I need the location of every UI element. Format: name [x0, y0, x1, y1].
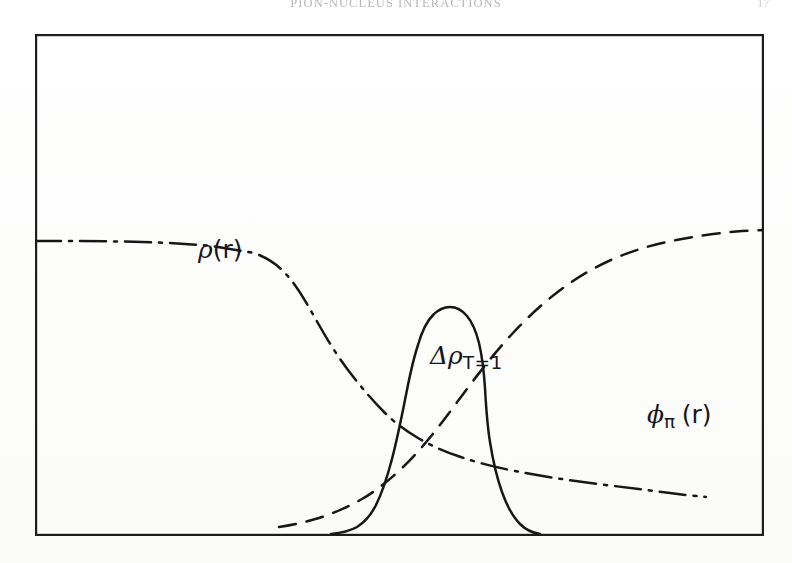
rho-symbol: ρ — [198, 235, 213, 264]
delta-rho-symbol: Δρ — [430, 341, 463, 370]
figure-frame — [36, 35, 763, 535]
running-header: Pion-Nucleus Interactions — [290, 0, 501, 11]
phi-pi-label: ϕπ(r) — [647, 402, 711, 432]
figure-panel: ρ(r) ΔρT=1 ϕπ(r) — [35, 34, 764, 536]
rho-argument: (r) — [213, 235, 243, 264]
curve-phi-pi — [279, 230, 764, 527]
rho-label: ρ(r) — [198, 237, 243, 262]
curve-group — [35, 230, 764, 534]
phi-subscript: π — [664, 411, 676, 432]
page-number: 17 — [757, 0, 770, 11]
delta-rho-label: ΔρT=1 — [430, 343, 503, 373]
figure-page: Pion-Nucleus Interactions 17 ρ(r) ΔρT=1 — [0, 0, 792, 563]
phi-symbol: ϕ — [647, 400, 664, 429]
curve-rho — [35, 241, 706, 497]
figure-plot-area — [35, 34, 764, 536]
phi-argument: (r) — [682, 400, 712, 429]
delta-rho-subscript: T=1 — [463, 352, 503, 373]
